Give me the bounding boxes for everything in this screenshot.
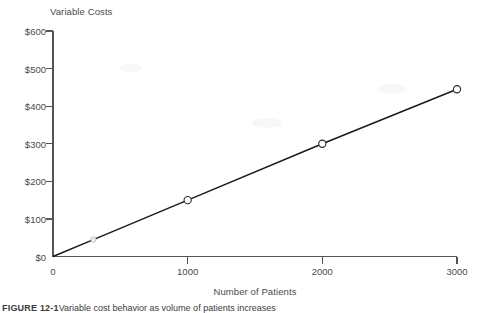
y-tick-label: $300 (25, 138, 46, 149)
data-line-variable-costs (53, 89, 457, 256)
x-tick-label: 1000 (177, 266, 198, 277)
x-axis-title: Number of Patients (0, 286, 480, 297)
data-point-marker (91, 237, 96, 242)
data-point-marker (453, 86, 460, 93)
y-tick-label: $200 (25, 176, 46, 187)
y-tick-label: $400 (25, 101, 46, 112)
figure-container: Variable Costs $0$100$200$300$400$500$60… (0, 0, 480, 313)
data-point-marker (319, 140, 326, 147)
data-point-marker (184, 197, 191, 204)
y-tick-label: $0 (35, 251, 46, 262)
x-axis-title-text: Number of Patients (213, 286, 296, 297)
y-tick-label: $500 (25, 63, 46, 74)
x-tick-label: 0 (50, 266, 55, 277)
figure-caption-label: FIGURE 12-1 (2, 303, 59, 313)
figure-caption-text: Variable cost behavior as volume of pati… (59, 303, 276, 313)
x-tick-label: 2000 (312, 266, 333, 277)
figure-caption: FIGURE 12-1Variable cost behavior as vol… (2, 303, 480, 313)
y-tick-label: $100 (25, 213, 46, 224)
chart-plot-area (0, 0, 480, 313)
y-tick-label: $600 (25, 26, 46, 37)
x-tick-label: 3000 (446, 266, 467, 277)
